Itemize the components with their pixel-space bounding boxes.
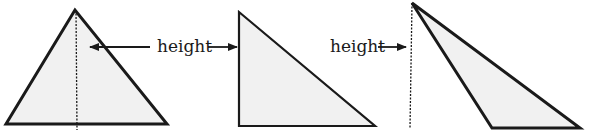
height-label-2: height bbox=[330, 38, 385, 55]
right-triangle-shape bbox=[239, 12, 375, 126]
obtuse-triangle-shape bbox=[412, 3, 580, 128]
height-label-1: height bbox=[157, 38, 212, 55]
triangle-heights-diagram bbox=[0, 0, 590, 136]
right-triangle bbox=[239, 12, 375, 126]
obtuse-height-line bbox=[410, 3, 412, 128]
acute-triangle-shape bbox=[6, 10, 167, 124]
acute-triangle bbox=[6, 10, 167, 130]
obtuse-triangle bbox=[410, 3, 580, 128]
